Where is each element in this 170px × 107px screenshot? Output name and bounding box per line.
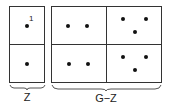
z-label: Z — [17, 91, 37, 103]
z-brace — [10, 85, 45, 90]
g-minus-z-label: G−Z — [90, 92, 122, 104]
annotation-1: 1 — [29, 14, 33, 23]
z-box — [10, 7, 45, 83]
g-minus-z-brace — [52, 85, 161, 91]
